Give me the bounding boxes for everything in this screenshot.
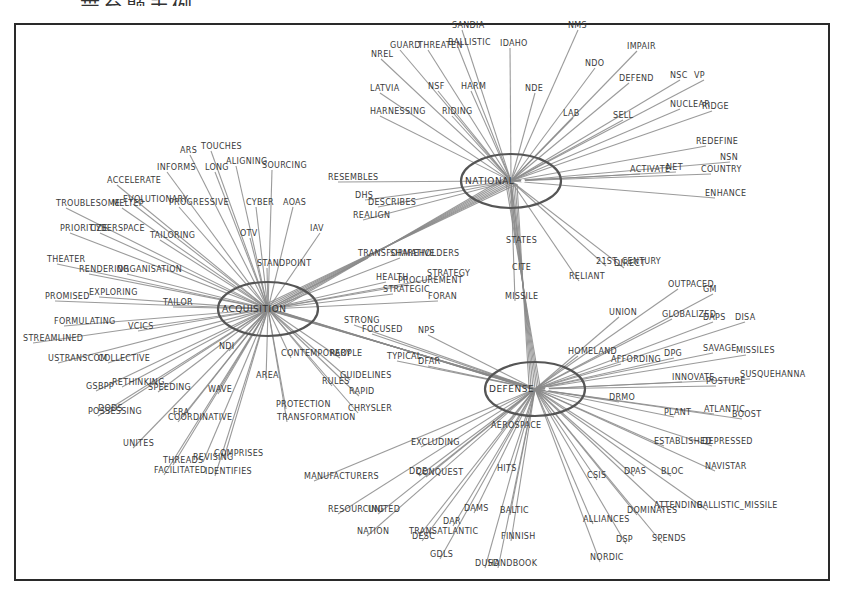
node-label: RAPID xyxy=(349,387,375,396)
node-label: NAVISTAR xyxy=(705,462,747,471)
edge-acquisition xyxy=(122,309,268,387)
node-label: SOURCING xyxy=(262,161,307,170)
node-label: DRMO xyxy=(609,393,635,402)
node-label: TYPICAL xyxy=(386,352,422,361)
node-label: CHRYSLER xyxy=(348,404,392,413)
node-label: DEPRESSED xyxy=(702,437,753,446)
node-label: ACCELERATE xyxy=(107,176,161,185)
node-labels-layer: SANDIANMSGUARDTHREATENBALLISTICIDAHONREL… xyxy=(23,21,806,568)
node-label: AREA xyxy=(256,371,279,380)
node-label: DOMINATES xyxy=(627,506,677,515)
node-label: BALLISTIC xyxy=(448,38,491,47)
edge-national xyxy=(511,162,730,181)
node-label: LAB xyxy=(563,109,580,118)
node-label: DIRECT xyxy=(614,259,645,268)
node-label: SHAREHOLDERS xyxy=(390,249,459,258)
edge-national-defense xyxy=(517,184,529,386)
edge-defense xyxy=(535,389,634,476)
node-label: VP xyxy=(694,71,705,80)
node-label: COLLECTIVE xyxy=(98,354,150,363)
node-label: TRANSFORMATION xyxy=(276,413,356,422)
node-label: VCICS xyxy=(128,322,154,331)
node-label: HANDBOOK xyxy=(488,559,538,568)
node-label: STREAMLINED xyxy=(23,334,83,343)
node-label: GUIDELINES xyxy=(340,371,392,380)
node-label: FOCUSED xyxy=(362,325,403,334)
edge-national xyxy=(511,83,629,181)
node-label: NREL xyxy=(371,50,393,59)
node-label: DSP xyxy=(616,535,633,544)
node-label: CITE xyxy=(512,263,531,272)
node-label: UNION xyxy=(609,308,637,317)
node-label: MANUFACTURERS xyxy=(304,472,379,481)
node-label: COUNTRY xyxy=(701,165,742,174)
node-label: CYBER xyxy=(246,198,274,207)
node-label: BALLISTIC_MISSILE xyxy=(697,501,778,510)
node-label: TAILOR xyxy=(162,298,193,307)
hub-center-dot xyxy=(521,179,525,183)
node-label: AEROSPACE xyxy=(491,421,541,430)
node-label: SPEEDING xyxy=(148,383,191,392)
node-label: STRONG xyxy=(344,316,380,325)
node-label: AFFORDING xyxy=(611,355,661,364)
node-label: NSN xyxy=(720,153,738,162)
node-label: ARS xyxy=(180,146,197,155)
node-label: TOUCHES xyxy=(200,142,242,151)
node-label: ALLIANCES xyxy=(583,515,630,524)
node-label: HITS xyxy=(497,464,517,473)
node-label: GDLS xyxy=(430,550,453,559)
hub-label-national: NATIONAL xyxy=(465,176,514,186)
node-label: EXCLUDING xyxy=(411,438,460,447)
node-label: GUARD xyxy=(390,41,421,50)
node-label: IMPAIR xyxy=(627,42,656,51)
node-label: WAVE xyxy=(208,385,232,394)
node-label: PROGRESSIVE xyxy=(169,198,229,207)
hub-label-acquisition: ACQUISITION xyxy=(222,304,286,314)
node-label: FORAN xyxy=(428,292,457,301)
hub-label-defense: DEFENSE xyxy=(489,384,534,394)
node-label: RIDING xyxy=(442,107,472,116)
node-label: RIDGE xyxy=(702,102,729,111)
node-label: NORDIC xyxy=(590,553,624,562)
edge-national xyxy=(511,181,606,266)
node-label: SPENDS xyxy=(652,534,686,543)
node-label: HARM xyxy=(461,82,486,91)
node-label: EXPLORING xyxy=(89,288,138,297)
edge-acquisition xyxy=(266,309,268,380)
node-label: CONQUEST xyxy=(416,468,463,477)
node-label: DPAS xyxy=(624,467,646,476)
node-label: ACTIVATE xyxy=(630,165,670,174)
node-label: FINNISH xyxy=(501,532,535,541)
node-label: NDE xyxy=(525,84,543,93)
node-label: TAILORING xyxy=(149,231,195,240)
node-label: FACILITATED xyxy=(154,466,206,475)
node-label: THEATER xyxy=(46,255,86,264)
edge-national xyxy=(511,93,535,181)
node-label: GSBPP xyxy=(86,382,114,391)
edge-national xyxy=(511,181,624,268)
node-label: DPG xyxy=(664,349,682,358)
hub-center-dot xyxy=(545,387,549,391)
edge-acquisition xyxy=(268,207,293,309)
node-label: MISSILE xyxy=(505,292,538,301)
node-label: INFORMS xyxy=(157,163,196,172)
edge-national xyxy=(511,181,715,198)
node-label: IDENTIFIES xyxy=(205,467,252,476)
node-label: DESC xyxy=(412,532,435,541)
node-label: NMS xyxy=(568,21,587,30)
node-label: PEOPLE xyxy=(330,349,362,358)
node-label: STRATEGIC xyxy=(383,285,430,294)
node-label: SANDIA xyxy=(452,21,485,30)
edge-defense xyxy=(535,389,664,510)
node-label: THREADS xyxy=(162,456,203,465)
edge-national xyxy=(511,120,623,181)
node-label: STANDPOINT xyxy=(257,259,311,268)
node-label: NSF xyxy=(428,82,445,91)
edge-defense xyxy=(474,389,535,513)
node-label: BLOC xyxy=(661,467,684,476)
edge-acquisition xyxy=(268,170,272,309)
node-label: PLANT xyxy=(664,408,691,417)
edge-national xyxy=(438,91,511,181)
node-label: LATVIA xyxy=(370,84,400,93)
node-label: COORDINATIVE xyxy=(168,413,232,422)
